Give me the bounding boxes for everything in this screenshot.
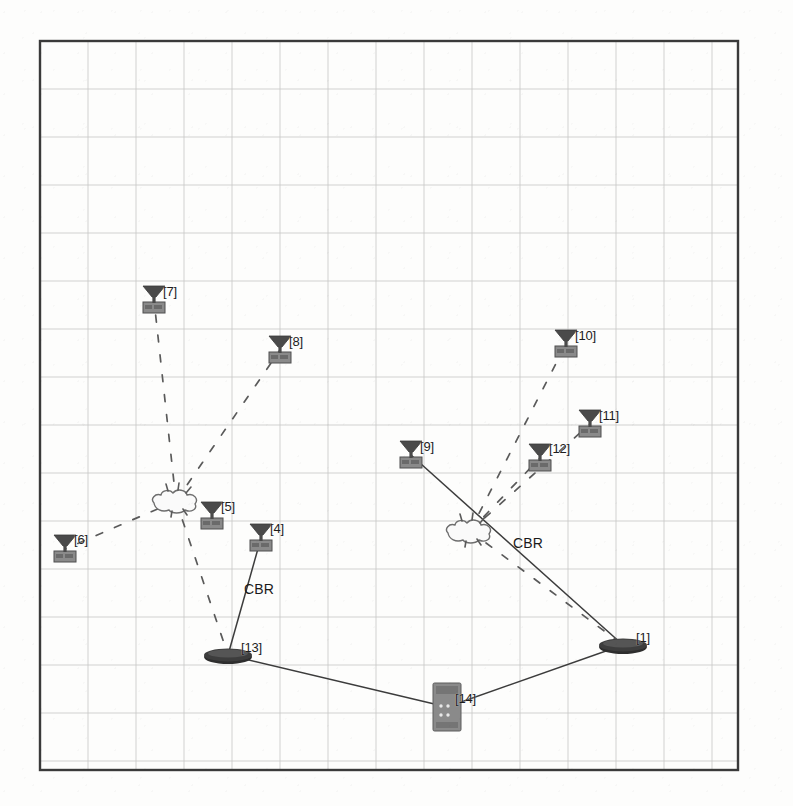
cbr-label-left: CBR (244, 581, 274, 597)
node-label-13: [13] (241, 640, 262, 655)
cbr-label-right: CBR (513, 535, 543, 551)
wireless-node-icon-7[interactable] (143, 286, 165, 313)
node-label-14: [14] (455, 691, 476, 706)
wireless-node-icon-5[interactable] (201, 502, 223, 529)
scene-border (40, 41, 738, 770)
node-label-7: [7] (163, 284, 177, 299)
broadcast-burst-left-icon (153, 483, 197, 517)
simulation-canvas: [1][4][5][6][7][8][9][10][11][12][13][14… (0, 0, 793, 806)
wireless-node-icon-11[interactable] (579, 410, 601, 437)
node-label-10: [10] (575, 328, 596, 343)
broadcast-burst-right-icon (447, 513, 491, 547)
node-label-5: [5] (221, 499, 235, 514)
link-13-14 (228, 655, 447, 707)
node-label-8: [8] (289, 334, 303, 349)
node-label-9: [9] (420, 439, 434, 454)
wireless-node-icon-10[interactable] (555, 330, 577, 357)
wireless-link-7 (154, 300, 176, 501)
wireless-node-icon-4[interactable] (250, 524, 272, 551)
node-label-4: [4] (270, 521, 284, 536)
links-layer (65, 300, 623, 707)
topology-viewport (0, 0, 793, 806)
wireless-node-icon-8[interactable] (269, 336, 291, 363)
node-label-12: [12] (549, 441, 570, 456)
grid (40, 41, 738, 770)
node-label-11: [11] (599, 408, 619, 423)
nodes-layer (54, 286, 647, 731)
node-label-1: [1] (636, 630, 650, 645)
wireless-node-icon-9[interactable] (400, 441, 422, 468)
wireless-node-icon-12[interactable] (529, 444, 551, 471)
wireless-link-10 (470, 344, 566, 531)
node-label-6: [6] (74, 532, 88, 547)
wireless-link-11 (470, 424, 590, 531)
wireless-link-8 (176, 350, 280, 501)
wireless-link-1 (470, 531, 623, 645)
bursts-layer (153, 483, 491, 547)
wireless-node-icon-6[interactable] (54, 535, 76, 562)
